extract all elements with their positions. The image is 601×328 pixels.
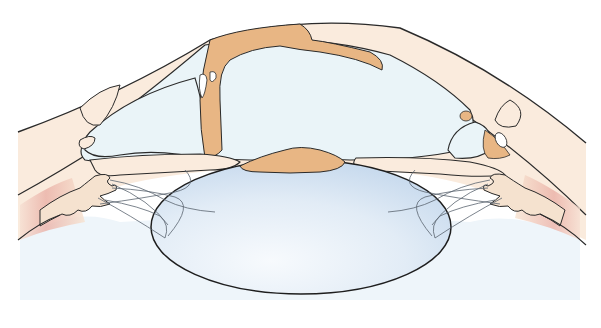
right-deposit-small <box>460 111 472 121</box>
diagram-canvas <box>0 0 601 328</box>
eye-anatomy-diagram <box>0 0 601 328</box>
lens <box>151 160 451 294</box>
